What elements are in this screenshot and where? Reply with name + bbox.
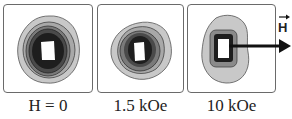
label-1-5-koe: 1.5 kOe — [97, 96, 184, 116]
label-10-koe: 10 kOe — [187, 96, 276, 116]
label-h-zero: H = 0 — [3, 96, 93, 116]
field-vector-label: H — [278, 20, 287, 35]
